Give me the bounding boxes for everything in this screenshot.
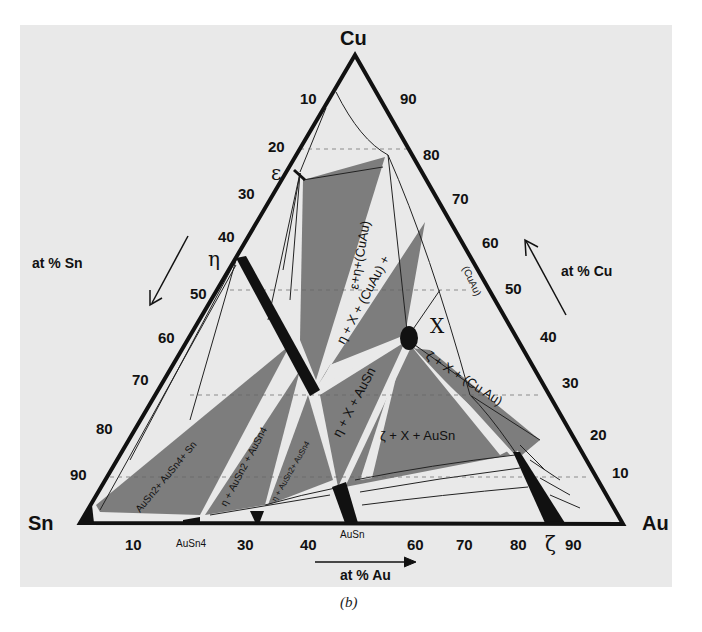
svg-text:80: 80 [510,536,527,553]
svg-text:20: 20 [268,138,285,155]
svg-text:40: 40 [540,328,557,345]
svg-text:50: 50 [190,285,207,302]
au-axis-label: at % Au [340,567,391,583]
figure-caption: (b) [340,594,358,611]
svg-text:30: 30 [238,185,255,202]
ternary-diagram: Cu Sn Au 10 20 30 40 50 60 70 80 90 90 8… [0,0,702,632]
svg-text:80: 80 [96,420,113,437]
cuau-label: (CuAu) [460,264,483,297]
svg-text:30: 30 [562,374,579,391]
au-arrow-head-icon [404,557,416,567]
eta-label: η [208,247,220,271]
svg-text:30: 30 [237,536,254,553]
epsilon-label: ε [271,161,281,185]
x-phase-oval [400,326,418,350]
svg-text:90: 90 [70,466,87,483]
svg-text:70: 70 [132,371,149,388]
ausn4-label: AuSn4 [176,538,206,549]
cu-axis-label: at % Cu [561,263,612,279]
ausn-phase-bar [332,482,358,523]
x-phase-label: X [430,314,445,338]
svg-text:60: 60 [158,329,175,346]
svg-text:60: 60 [407,536,424,553]
svg-text:10: 10 [125,536,142,553]
svg-text:10: 10 [300,90,317,107]
svg-text:90: 90 [565,536,582,553]
svg-text:90: 90 [400,90,417,107]
svg-text:50: 50 [505,280,522,297]
svg-text:60: 60 [482,234,499,251]
sn-axis-label: at % Sn [32,255,83,271]
vertex-sn: Sn [28,512,54,534]
svg-text:10: 10 [612,464,629,481]
vertex-cu: Cu [340,27,367,49]
zeta-label: ζ [545,532,556,556]
ausn-label: AuSn [340,529,364,540]
region-label-zeta-x-ausn: ζ + X + AuSn [380,428,455,443]
svg-text:70: 70 [456,536,473,553]
svg-text:20: 20 [590,426,607,443]
vertex-au: Au [642,512,669,534]
svg-text:80: 80 [423,146,440,163]
svg-text:40: 40 [218,228,235,245]
svg-text:70: 70 [452,190,469,207]
svg-text:40: 40 [300,536,317,553]
cu-axis-arrow [526,241,566,315]
sn-axis-arrow [152,236,188,303]
